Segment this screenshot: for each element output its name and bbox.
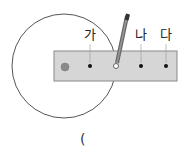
label-na: 나 xyxy=(135,28,147,41)
answer-parenthesis: ( xyxy=(80,132,85,146)
hole-pencil xyxy=(114,64,119,69)
compass-ruler-diagram xyxy=(0,0,187,157)
label-da: 다 xyxy=(160,28,172,41)
pivot-pin-icon xyxy=(61,63,69,71)
hole-ga xyxy=(88,64,92,68)
hole-na xyxy=(139,64,143,68)
label-ga: 가 xyxy=(84,28,96,41)
hole-da xyxy=(164,64,168,68)
